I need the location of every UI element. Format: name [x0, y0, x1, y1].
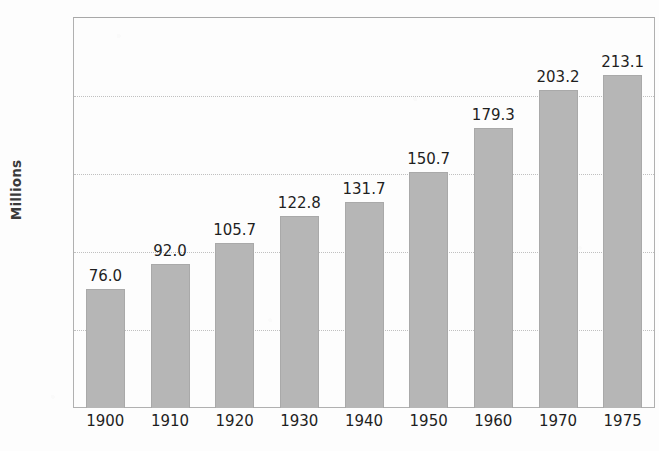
bar-1920[interactable]	[215, 243, 254, 408]
bar-value-label-1970: 203.2	[537, 68, 580, 86]
bar-value-label-1920: 105.7	[213, 221, 256, 239]
bar-chart-figure: Population Millions 76.092.0105.7122.813…	[0, 0, 659, 451]
bar-value-label-1950: 150.7	[407, 150, 450, 168]
x-tick-label-1930: 1930	[267, 412, 332, 430]
bar-group[interactable]: 179.3	[474, 17, 513, 408]
bar-1940[interactable]	[345, 202, 384, 408]
bar-1930[interactable]	[280, 216, 319, 408]
bar-group[interactable]: 150.7	[409, 17, 448, 408]
bar-value-label-1910: 92.0	[153, 242, 186, 260]
x-tick-label-1920: 1920	[202, 412, 267, 430]
bar-value-label-1930: 122.8	[278, 194, 321, 212]
bar-1900[interactable]	[86, 289, 125, 408]
bar-group[interactable]: 105.7	[215, 17, 254, 408]
bar-group[interactable]: 122.8	[280, 17, 319, 408]
x-tick-label-1900: 1900	[73, 412, 138, 430]
bar-group[interactable]: 76.0	[86, 17, 125, 408]
bar-value-label-1975: 213.1	[601, 53, 644, 71]
x-tick-label-1970: 1970	[526, 412, 591, 430]
y-axis-label: Millions	[8, 150, 24, 230]
bar-value-label-1900: 76.0	[89, 267, 122, 285]
bar-1950[interactable]	[409, 172, 448, 408]
bar-value-label-1960: 179.3	[472, 106, 515, 124]
x-tick-label-1940: 1940	[332, 412, 397, 430]
bar-group[interactable]: 203.2	[539, 17, 578, 408]
x-tick-label-1910: 1910	[138, 412, 203, 430]
bar-1970[interactable]	[539, 90, 578, 408]
bar-group[interactable]: 92.0	[151, 17, 190, 408]
bar-1910[interactable]	[151, 264, 190, 408]
x-tick-label-1960: 1960	[461, 412, 526, 430]
bar-group[interactable]: 131.7	[345, 17, 384, 408]
x-axis-tick-labels: 190019101920193019401950196019701975	[73, 412, 655, 442]
x-tick-label-1975: 1975	[590, 412, 655, 430]
bar-value-label-1940: 131.7	[343, 180, 386, 198]
chart-title-cropped: Population	[0, 0, 659, 14]
bar-group[interactable]: 213.1	[603, 17, 642, 408]
x-tick-label-1950: 1950	[396, 412, 461, 430]
bar-1960[interactable]	[474, 128, 513, 408]
bars-layer: 76.092.0105.7122.8131.7150.7179.3203.221…	[73, 17, 655, 408]
bar-1975[interactable]	[603, 75, 642, 408]
